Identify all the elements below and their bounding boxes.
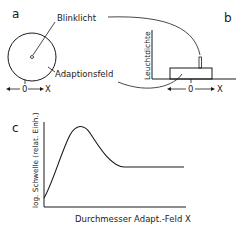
arrow-right-icon: [40, 87, 44, 91]
panel-c-ylabel: log. Schwelle (relat. Einh.): [31, 112, 40, 208]
field-luminance-box: [170, 68, 212, 79]
flash-leader-line: [33, 22, 55, 55]
figure: a Blinklicht Adaptionsfeld 0 X b Leuchtd…: [0, 0, 246, 231]
panel-c-xlabel: Durchmesser Adapt.-Feld X: [75, 214, 191, 224]
field-label: Adaptionsfeld: [55, 69, 113, 79]
arrow-left-icon: [167, 87, 171, 91]
adaptation-field-circle: [8, 33, 56, 81]
flash-dot: [31, 56, 34, 59]
axis-x-b: X: [217, 84, 223, 94]
flash-label: Blinklicht: [57, 13, 97, 23]
panel-b-letter: b: [224, 11, 232, 25]
connector-flash: [108, 17, 200, 55]
panel-b-ylabel: Leuchtdichte: [143, 31, 152, 80]
arrow-right-icon: [211, 87, 215, 91]
threshold-curve: [44, 126, 184, 198]
flash-luminance-bar: [199, 57, 202, 68]
panel-c-letter: c: [12, 121, 19, 135]
panel-a-letter: a: [12, 7, 19, 21]
axis-zero-b: 0: [188, 84, 193, 94]
axis-x-a: X: [45, 84, 51, 94]
arrow-left-icon: [6, 87, 10, 91]
axis-zero-a: 0: [22, 84, 27, 94]
